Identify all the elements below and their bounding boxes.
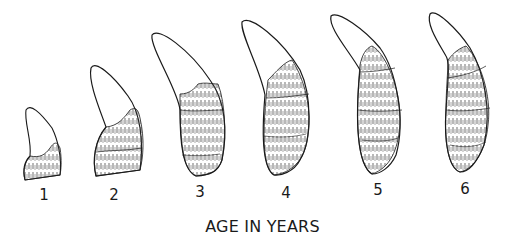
tooth-age-4 bbox=[242, 21, 309, 176]
tooth-age-6 bbox=[429, 13, 490, 172]
tooth-age-2 bbox=[91, 66, 144, 176]
tooth-label-2: 2 bbox=[109, 186, 119, 204]
caption-text: AGE IN YEARS bbox=[205, 217, 320, 236]
tooth-label-5: 5 bbox=[373, 181, 383, 199]
tooth-age-5 bbox=[331, 15, 402, 174]
tooth-age-1 bbox=[24, 108, 61, 180]
tooth-label-3: 3 bbox=[195, 183, 205, 201]
figure-caption: AGE IN YEARS bbox=[0, 217, 505, 236]
tooth-age-3 bbox=[152, 33, 225, 176]
tooth-label-1: 1 bbox=[39, 186, 49, 204]
teeth-illustration bbox=[0, 0, 505, 240]
tooth-label-4: 4 bbox=[281, 184, 291, 202]
tooth-label-6: 6 bbox=[460, 180, 470, 198]
